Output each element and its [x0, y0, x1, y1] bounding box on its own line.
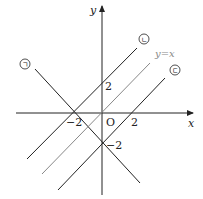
tick-x-pos2: 2 — [131, 116, 138, 129]
svg-text:ㄷ: ㄷ — [172, 67, 178, 75]
tick-y-neg2: −2 — [106, 139, 122, 152]
marker-digeut: ㄷ — [170, 65, 180, 75]
svg-text:ㄴ: ㄴ — [141, 36, 147, 44]
y-axis-label: y — [89, 4, 97, 17]
origin-label: O — [106, 116, 115, 129]
x-axis-label: x — [188, 117, 195, 130]
line-giyeok — [35, 69, 140, 183]
line-digeut — [58, 78, 165, 190]
marker-giyeok: ㄱ — [20, 59, 30, 69]
y-equals-x-label: y=x — [154, 48, 175, 59]
tick-y-pos2: 2 — [105, 80, 112, 93]
tick-x-neg2: −2 — [66, 116, 82, 129]
svg-text:ㄱ: ㄱ — [22, 61, 28, 69]
marker-nieun: ㄴ — [139, 34, 149, 44]
coordinate-diagram: ㄱ ㄴ ㄷ y=x y x O −2 2 2 −2 — [0, 0, 203, 199]
